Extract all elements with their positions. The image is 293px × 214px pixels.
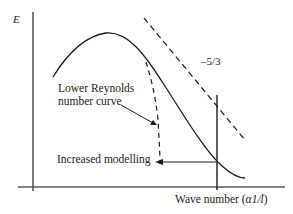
lower-reynolds-line-2: number curve xyxy=(58,95,122,107)
reynolds-leader-head xyxy=(150,120,157,125)
lower-reynolds-line-1: Lower Reynolds xyxy=(58,82,134,94)
slope-annotation-label: –5/3 xyxy=(201,55,221,67)
energy-spectrum-figure: E Wave number (α1/l) –5/3 Lower Reynolds… xyxy=(0,0,293,214)
lower-reynolds-branch xyxy=(146,62,160,164)
increased-modelling-annotation: Increased modelling xyxy=(57,153,151,166)
y-axis-label: E xyxy=(13,13,20,25)
lower-reynolds-annotation: Lower Reynoldsnumber curve xyxy=(58,82,134,108)
x-axis-label: Wave number (α1/l) xyxy=(175,193,268,206)
figure-canvas xyxy=(0,0,293,214)
x-axis-label-symbol: α1/l xyxy=(246,193,264,205)
slope-reference-line xyxy=(144,18,245,140)
x-axis-label-prefix: Wave number ( xyxy=(175,193,246,205)
x-axis-label-suffix: ) xyxy=(264,193,268,205)
modelling-arrow-head xyxy=(155,159,163,165)
